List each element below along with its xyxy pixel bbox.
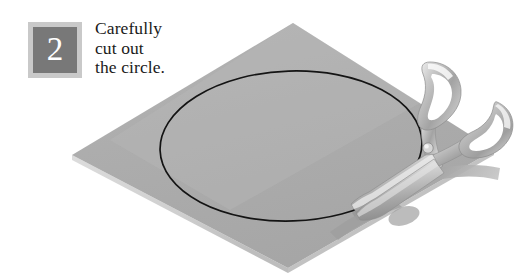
illustration-scene: 2 Carefully cut out the circle.	[0, 0, 527, 276]
instruction-text: Carefully cut out the circle.	[95, 19, 225, 78]
instruction-line-3: the circle.	[95, 58, 225, 78]
step-number-badge: 2	[28, 22, 82, 78]
step-number: 2	[47, 33, 64, 66]
instruction-line-2: cut out	[95, 39, 225, 59]
scissors-pivot	[423, 143, 433, 153]
step-number-badge-inner: 2	[33, 27, 77, 73]
pivot-screw-highlight	[424, 144, 428, 148]
instruction-line-1: Carefully	[95, 19, 225, 39]
scissors-handle-loop-lower	[459, 102, 513, 158]
scissors-handle-loop-upper	[418, 62, 461, 130]
